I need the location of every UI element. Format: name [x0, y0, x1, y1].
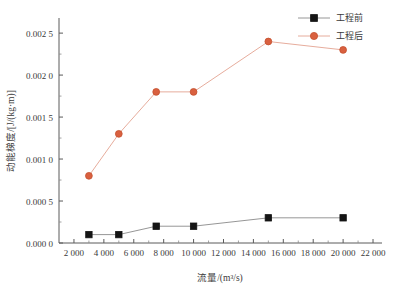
data-point-marker[interactable]: [153, 88, 160, 95]
y-tick-label: 0.000 5: [26, 197, 54, 207]
x-tick-label: 10 000: [181, 248, 206, 258]
x-tick-label: 20 000: [331, 248, 356, 258]
data-point-marker[interactable]: [86, 231, 92, 237]
legend-marker-2: [310, 32, 317, 39]
x-tick-label: 12 000: [211, 248, 236, 258]
x-tick-label: 2 000: [64, 248, 85, 258]
data-point-marker[interactable]: [190, 88, 197, 95]
y-tick-label: 0.001 0: [26, 155, 54, 165]
chart-background: [0, 0, 399, 287]
y-tick-label: 0.001 5: [26, 113, 54, 123]
x-axis-title: 流量/(m³/s): [197, 272, 243, 284]
y-tick-label: 0.002 5: [26, 29, 54, 39]
y-tick-label: 0.000 0: [26, 239, 54, 249]
legend-label-1: 工程前: [336, 12, 363, 23]
data-point-marker[interactable]: [86, 172, 93, 179]
y-axis-title: 动能梯度/[J/(kg·m)]: [5, 90, 17, 172]
data-point-marker[interactable]: [190, 223, 196, 229]
data-point-marker[interactable]: [340, 47, 347, 54]
kinetic-energy-gradient-line-chart: 2 0004 0006 0008 00010 00012 00014 00016…: [0, 0, 399, 287]
y-tick-label: 0.002 0: [26, 71, 54, 81]
x-tick-label: 4 000: [94, 248, 115, 258]
x-tick-label: 8 000: [154, 248, 175, 258]
x-tick-label: 14 000: [241, 248, 266, 258]
x-tick-label: 6 000: [124, 248, 145, 258]
x-tick-label: 18 000: [301, 248, 326, 258]
x-tick-label: 16 000: [271, 248, 296, 258]
data-point-marker[interactable]: [116, 231, 122, 237]
chart-figure: 2 0004 0006 0008 00010 00012 00014 00016…: [0, 0, 399, 287]
data-point-marker[interactable]: [265, 38, 272, 45]
data-point-marker[interactable]: [115, 130, 122, 137]
data-point-marker[interactable]: [340, 215, 346, 221]
legend-marker-1: [311, 15, 318, 22]
legend-label-2: 工程后: [336, 31, 363, 41]
x-tick-label: 22 000: [361, 248, 386, 258]
data-point-marker[interactable]: [153, 223, 159, 229]
data-point-marker[interactable]: [265, 215, 271, 221]
